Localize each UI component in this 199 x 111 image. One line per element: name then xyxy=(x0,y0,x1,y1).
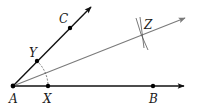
label-y: Y xyxy=(29,46,38,60)
label-c: C xyxy=(59,12,68,26)
label-a: A xyxy=(8,92,18,106)
label-b: B xyxy=(148,92,158,106)
point-x xyxy=(46,84,50,88)
point-b xyxy=(151,84,155,88)
point-c xyxy=(68,26,72,30)
point-a xyxy=(11,84,16,89)
label-x: X xyxy=(42,92,52,106)
angle-bisector-diagram: A X B Y C Z xyxy=(0,0,199,111)
ray-az-bisector xyxy=(13,18,185,86)
label-z: Z xyxy=(143,18,153,32)
ray-ac xyxy=(13,7,91,86)
